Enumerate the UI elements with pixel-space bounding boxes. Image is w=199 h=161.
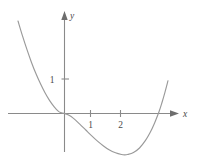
graph-canvas [0,0,199,161]
graph-figure: y x 1 1 2 [0,0,199,161]
function-curve [18,21,168,155]
arrow-up-icon [61,11,67,20]
arrow-right-icon [170,110,179,116]
